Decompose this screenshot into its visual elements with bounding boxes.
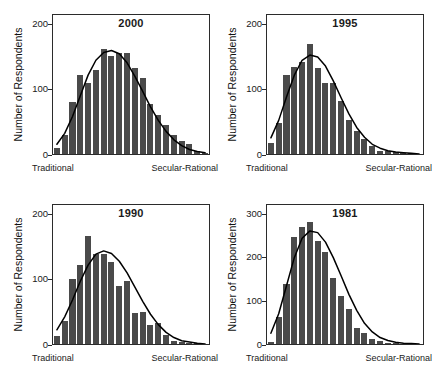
panel-1990: Number of Respondents01002001990Traditio… xyxy=(0,190,215,381)
x-axis-caption: TraditionalSecular-Rational xyxy=(246,163,432,173)
bar xyxy=(54,148,60,154)
y-tick-label: 100 xyxy=(232,83,262,94)
dotted-connector xyxy=(289,355,365,362)
x-axis-caption-left: Traditional xyxy=(246,163,288,173)
bar xyxy=(85,83,91,154)
y-tick-mark xyxy=(262,155,266,156)
bar xyxy=(369,146,375,154)
bar xyxy=(77,265,83,344)
x-axis-caption-right: Secular-Rational xyxy=(365,353,432,363)
bar xyxy=(85,236,91,344)
bar xyxy=(101,49,107,154)
y-tick-mark xyxy=(262,345,266,346)
bar xyxy=(69,102,75,154)
dotted-connector xyxy=(289,165,365,172)
bar xyxy=(163,125,169,154)
bar xyxy=(147,104,153,154)
bar xyxy=(291,237,297,344)
bar xyxy=(283,75,289,154)
y-tick-label: 100 xyxy=(18,83,48,94)
y-tick-label: 200 xyxy=(232,18,262,29)
y-tick-label: 200 xyxy=(18,208,48,219)
bar xyxy=(354,328,360,344)
x-axis-caption-left: Traditional xyxy=(32,353,74,363)
y-tick-label: 0 xyxy=(232,149,262,160)
bar xyxy=(393,343,399,344)
bar xyxy=(354,131,360,154)
bar xyxy=(116,53,122,155)
bar xyxy=(69,279,75,344)
bar xyxy=(268,342,274,344)
bar xyxy=(315,68,321,154)
bar xyxy=(171,135,177,154)
y-tick-label: 300 xyxy=(232,208,262,219)
bar xyxy=(124,53,130,155)
panel-1981: Number of Respondents01002003001981Tradi… xyxy=(214,190,429,381)
bar-series xyxy=(53,15,209,154)
bar xyxy=(194,151,200,154)
y-tick-label: 200 xyxy=(18,18,48,29)
bar-series xyxy=(267,15,423,154)
y-axis-label: Number of Respondents xyxy=(226,204,238,345)
plot-area: 1990 xyxy=(52,204,210,345)
bar xyxy=(147,325,153,344)
bar xyxy=(361,333,367,344)
bar xyxy=(77,75,83,154)
x-axis-caption-right: Secular-Rational xyxy=(151,163,218,173)
bar xyxy=(93,70,99,154)
bar xyxy=(186,343,192,344)
bar xyxy=(140,312,146,344)
bar xyxy=(400,153,406,154)
bar xyxy=(393,152,399,154)
bar xyxy=(132,313,138,344)
bar xyxy=(171,341,177,344)
bar-series xyxy=(267,205,423,344)
bar xyxy=(307,222,313,344)
y-tick-label: 0 xyxy=(18,339,48,350)
bar xyxy=(202,153,208,154)
x-axis-caption: TraditionalSecular-Rational xyxy=(32,163,218,173)
bar xyxy=(377,151,383,154)
bar xyxy=(132,68,138,154)
bar xyxy=(385,151,391,154)
bar xyxy=(155,115,161,154)
bar xyxy=(385,343,391,344)
bar xyxy=(62,135,68,154)
plot-area: 2000 xyxy=(52,14,210,155)
bar xyxy=(140,78,146,154)
y-tick-label: 100 xyxy=(232,295,262,306)
bar xyxy=(186,144,192,154)
bar xyxy=(101,254,107,345)
bar xyxy=(116,286,122,344)
bar xyxy=(330,278,336,344)
bar xyxy=(194,343,200,344)
bar xyxy=(62,321,68,344)
dotted-connector xyxy=(75,355,151,362)
dotted-connector xyxy=(75,165,151,172)
bar xyxy=(408,153,414,154)
bar xyxy=(338,101,344,154)
y-tick-mark xyxy=(48,155,52,156)
bar xyxy=(338,296,344,344)
bar xyxy=(315,241,321,344)
bar xyxy=(93,254,99,345)
y-tick-mark xyxy=(48,345,52,346)
bar xyxy=(124,281,130,344)
y-tick-label: 200 xyxy=(232,251,262,262)
panel-1995: Number of Respondents01002001995Traditio… xyxy=(214,0,429,190)
y-tick-label: 100 xyxy=(18,273,48,284)
bar xyxy=(268,143,274,154)
bar xyxy=(179,141,185,154)
bar xyxy=(299,62,305,154)
bar xyxy=(299,227,305,344)
bar xyxy=(108,56,114,154)
bar xyxy=(322,252,328,344)
bar xyxy=(291,67,297,154)
bar xyxy=(179,342,185,344)
x-axis-caption-right: Secular-Rational xyxy=(365,163,432,173)
panel-2000: Number of Respondents01002002000Traditio… xyxy=(0,0,215,190)
y-tick-label: 0 xyxy=(18,149,48,160)
bar xyxy=(283,284,289,344)
plot-area: 1995 xyxy=(266,14,424,155)
